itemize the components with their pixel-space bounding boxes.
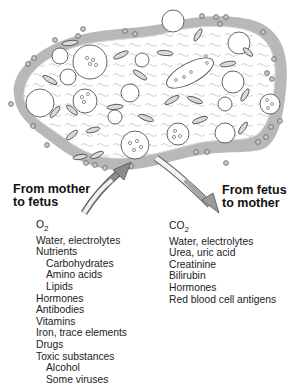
list-item: Carbohydrates (36, 258, 127, 270)
list-item: Creatinine (169, 259, 276, 271)
list-item: Water, electrolytes (169, 236, 276, 248)
heading-fetus-to-mother: From fetus to mother (222, 184, 287, 210)
list-item: Red blood cell antigens (169, 294, 276, 306)
arrow-fetus-to-mother (156, 158, 219, 213)
list-item: Alcohol (36, 362, 127, 374)
list-item: Vitamins (36, 316, 127, 328)
list-item: Hormones (36, 293, 127, 305)
heading-mother-to-fetus: From mother to fetus (13, 183, 90, 209)
list-item: Drugs (36, 339, 127, 351)
list-item: Toxic substances (36, 351, 127, 363)
list-item: Amino acids (36, 269, 127, 281)
heading-line: to mother (222, 197, 287, 210)
heading-line: to fetus (13, 196, 90, 209)
list-item: Urea, uric acid (169, 247, 276, 259)
list-item: Iron, trace elements (36, 327, 127, 339)
fetus-to-mother-list: CO2 Water, electrolytes Urea, uric acid … (169, 220, 276, 305)
list-item: Lipids (36, 281, 127, 293)
list-item: O2 (36, 219, 127, 235)
list-item: Water, electrolytes (36, 235, 127, 247)
list-item: Some viruses (36, 374, 127, 386)
list-item: Nutrients (36, 246, 127, 258)
list-item: Hormones (169, 282, 276, 294)
list-item: Antibodies (36, 304, 127, 316)
list-item: CO2 (169, 220, 276, 236)
arrow-mother-to-fetus (84, 162, 131, 213)
list-item: Bilirubin (169, 270, 276, 282)
mother-to-fetus-list: O2 Water, electrolytes Nutrients Carbohy… (36, 219, 127, 385)
